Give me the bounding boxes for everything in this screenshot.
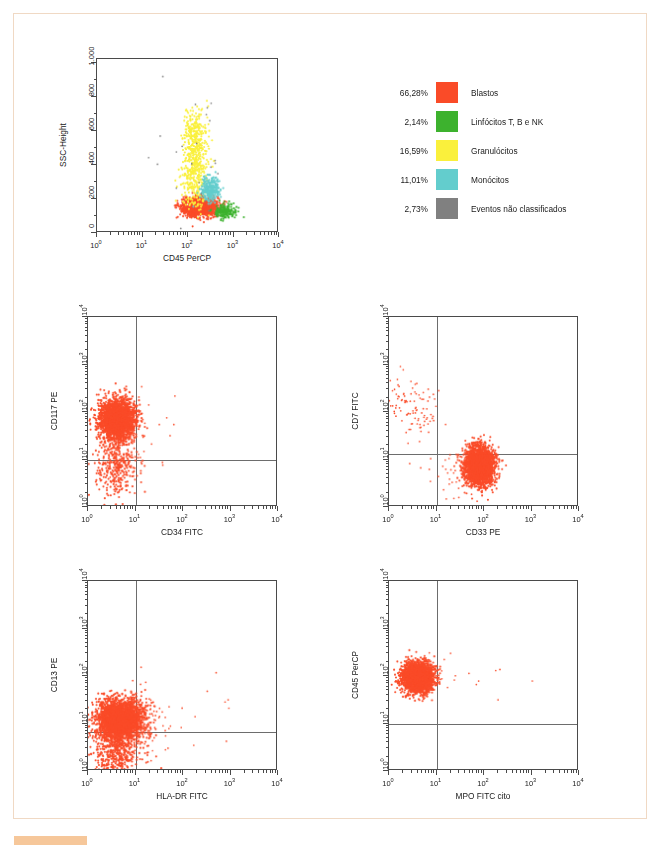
legend-percent: 2,73%	[382, 204, 436, 214]
legend-percent: 16,59%	[382, 146, 436, 156]
legend-row: 16,59%Granulócitos	[382, 136, 597, 165]
bottom-accent-bar	[14, 836, 87, 845]
legend-label: Eventos não classificados	[458, 204, 566, 214]
legend-swatch-monocitos	[436, 169, 458, 190]
legend-label: Linfócitos T, B e NK	[458, 117, 543, 127]
legend-percent: 11,01%	[382, 175, 436, 185]
legend-row: 66,28%Blastos	[382, 78, 597, 107]
legend-row: 2,14%Linfócitos T, B e NK	[382, 107, 597, 136]
legend-row: 11,01%Monócitos	[382, 165, 597, 194]
legend-swatch-blastos	[436, 82, 458, 103]
legend-percent: 2,14%	[382, 117, 436, 127]
legend-swatch-granulocitos	[436, 140, 458, 161]
legend-percent: 66,28%	[382, 88, 436, 98]
legend-row: 2,73%Eventos não classificados	[382, 194, 597, 223]
legend: 66,28%Blastos2,14%Linfócitos T, B e NK16…	[382, 78, 597, 223]
legend-label: Granulócitos	[458, 146, 518, 156]
legend-swatch-nao-classificados	[436, 198, 458, 219]
legend-label: Monócitos	[458, 175, 509, 185]
legend-label: Blastos	[458, 88, 498, 98]
legend-swatch-linfocitos	[436, 111, 458, 132]
